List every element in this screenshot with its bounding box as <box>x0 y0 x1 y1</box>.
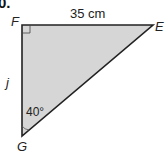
triangle-shape <box>22 25 153 136</box>
side-fg-label: j <box>6 76 9 89</box>
vertex-label-f: F <box>11 15 19 28</box>
side-fe-length: 35 cm <box>70 7 105 20</box>
vertex-label-g: G <box>17 140 27 153</box>
vertex-label-e: E <box>155 20 164 33</box>
right-triangle-diagram <box>0 0 167 155</box>
angle-g-value: 40° <box>26 106 44 118</box>
